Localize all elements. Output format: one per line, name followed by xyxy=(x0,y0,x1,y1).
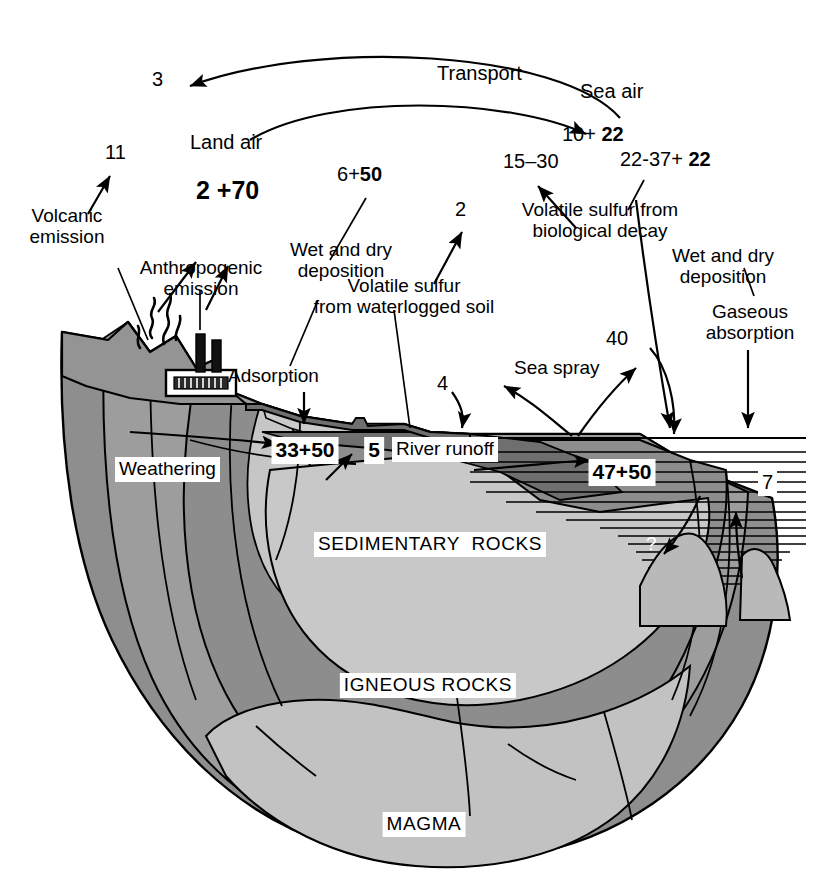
value-land-air-pool: 2 +70 xyxy=(196,176,259,204)
volatile-soil-leader xyxy=(394,310,410,428)
label-anthropogenic-emission: Anthropogenic emission xyxy=(140,257,263,300)
label-river-runoff: River runoff xyxy=(392,437,498,462)
value-ads-sed-anthropogenic: 50 xyxy=(311,438,334,461)
label-weathering: Weathering xyxy=(115,457,220,482)
value-wdd-land-natural: 6 xyxy=(337,163,348,185)
value-sea-spray-down: 4 xyxy=(437,372,448,394)
value-transport-to-land: 3 xyxy=(152,68,163,90)
transport-arc-to-sea xyxy=(250,106,586,141)
value-river-runoff: 5 xyxy=(364,437,384,464)
label-adsorption: Adsorption xyxy=(228,365,319,386)
label-magma: MAGMA xyxy=(383,812,466,837)
deposition-to-land-arrow xyxy=(452,392,463,428)
value-unknown-burial: ? xyxy=(646,533,657,555)
value-land-air-anthropogenic: +70 xyxy=(217,176,259,204)
label-sedimentary-rocks: SEDIMENTARY ROCKS xyxy=(314,532,546,557)
value-sea-air-pool: 10+ 22 xyxy=(562,123,624,145)
value-volcanic: 11 xyxy=(105,141,126,163)
value-ocean-anthropogenic: 50 xyxy=(628,460,651,483)
label-transport: Transport xyxy=(437,62,522,84)
label-wet-and-dry-deposition-sea: Wet and dry deposition xyxy=(672,245,774,288)
label-volatile-sulfur-biological-decay: Volatile sulfur from biological decay xyxy=(522,199,678,242)
value-ocean-pool: 47+50 xyxy=(589,459,656,486)
value-deposition-sea-natural: 22-37+ xyxy=(620,148,683,170)
label-land-air: Land air xyxy=(190,131,262,153)
value-deposition-sea-anthropogenic: 22 xyxy=(688,148,710,170)
label-volatile-sulfur-waterlogged-soil: Volatile sulfur from waterlogged soil xyxy=(314,275,495,318)
value-adsorption-sediment: 33+50 xyxy=(272,437,339,464)
value-volatile-soil: 2 xyxy=(455,198,466,220)
sulfur-cycle-figure: 3 Transport Sea air Land air 10+ 22 11 1… xyxy=(0,0,828,876)
label-volcanic-emission: Volcanic emission xyxy=(30,205,105,248)
transport-arc-to-land xyxy=(190,57,620,118)
label-igneous-rocks: IGNEOUS ROCKS xyxy=(340,673,516,698)
value-sea-air-natural: 10+ xyxy=(562,123,596,145)
value-land-air-natural: 2 xyxy=(196,176,210,204)
value-ocean-natural: 47+ xyxy=(593,460,629,483)
value-wdd-land-anthropogenic: 50 xyxy=(360,163,382,185)
label-sea-spray: Sea spray xyxy=(514,357,600,378)
value-biological-decay: 15–30 xyxy=(503,150,559,172)
value-ads-sed-natural: 33+ xyxy=(276,438,312,461)
sea-spray-down-arrow xyxy=(650,348,674,434)
value-wet-dry-deposition-land: 6+50 xyxy=(337,163,382,185)
value-sea-spray-up: 40 xyxy=(606,327,628,349)
label-gaseous-absorption: Gaseous absorption xyxy=(706,301,795,344)
sea-spray-to-land-arrow xyxy=(504,386,572,436)
value-sea-air-anthropogenic: 22 xyxy=(602,123,624,145)
seamount-right xyxy=(740,549,790,620)
value-deposition-sea: 22-37+ 22 xyxy=(620,148,711,170)
value-hydrothermal: 7 xyxy=(758,470,777,496)
label-sea-air: Sea air xyxy=(580,80,643,102)
